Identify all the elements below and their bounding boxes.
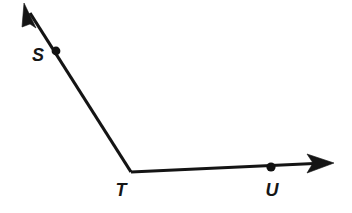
point-dot-u [266,162,275,171]
point-label-u: U [266,180,280,200]
angle-diagram-canvas: S T U [0,0,352,213]
point-label-s: S [32,45,44,65]
geometry-figure: S T U [0,0,352,213]
point-dot-s [52,47,61,56]
figure-background [0,0,352,213]
